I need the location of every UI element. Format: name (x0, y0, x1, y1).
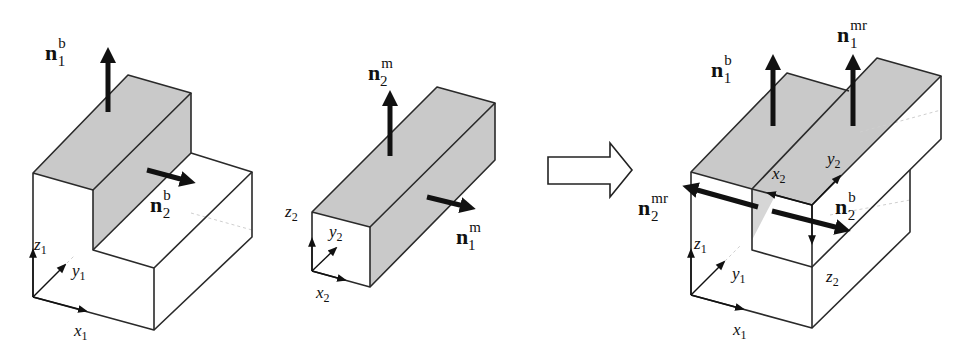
label-n2-mr: nmr2 (638, 190, 668, 224)
block-right-arrow-icon (548, 143, 632, 197)
label-z2: z2 (284, 202, 298, 224)
label-x1: x1 (73, 321, 88, 343)
assembled-figure: nb1 nmr1 nmr2 nb2 x2 y2 z2 z1 y1 x1 (638, 17, 941, 342)
label-n1-b: nb1 (45, 35, 66, 69)
mating-body-figure: nm2 nm1 z2 y2 x2 (284, 55, 495, 305)
label-n2-m: nm2 (368, 55, 393, 89)
label-x1-assembled: x1 (732, 320, 747, 342)
label-n1-b-assembled: nb1 (711, 52, 732, 86)
base-body-figure: nb1 nb2 z1 y1 x1 (33, 35, 252, 343)
label-n1-m: nm1 (456, 219, 481, 253)
assembly-diagram: nb1 nb2 z1 y1 x1 nm2 nm1 z2 y2 x2 (0, 0, 973, 362)
label-x2: x2 (315, 283, 330, 305)
label-n1-mr: nmr1 (837, 17, 867, 51)
